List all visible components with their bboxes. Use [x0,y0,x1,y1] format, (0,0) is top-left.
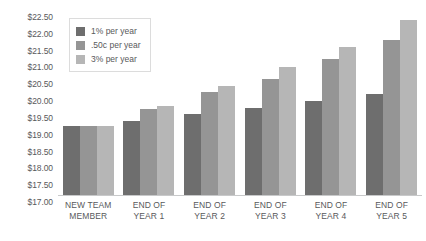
x-tick-label: END OFYEAR 4 [301,200,362,222]
bar [383,40,400,195]
bar [97,126,114,195]
y-tick-label: $20.50 [28,80,53,89]
bar [339,47,356,195]
legend-item: .50c per year [76,38,141,52]
bar [366,94,383,195]
legend-swatch-icon [76,55,85,64]
y-tick-label: $18.50 [28,148,53,157]
y-tick-label: $22.50 [28,13,53,22]
x-tick-label-line: YEAR 5 [361,211,422,222]
bar-chart: $22.50$22.00$21.50$21.00$20.50$20.00$19.… [0,0,426,241]
x-tick-label-line: END OF [301,200,362,211]
y-axis: $22.50$22.00$21.50$21.00$20.50$20.00$19.… [0,14,57,202]
x-tick-label: END OFYEAR 2 [179,200,240,222]
x-tick-label: END OFYEAR 5 [361,200,422,222]
legend-swatch-icon [76,27,85,36]
bar [305,101,322,195]
x-tick-label-line: END OF [119,200,180,211]
y-tick-label: $17.00 [28,198,53,207]
y-tick-label: $21.00 [28,63,53,72]
y-tick-label: $19.50 [28,114,53,123]
bar [80,126,97,195]
x-tick-label: NEW TEAMMEMBER [58,200,119,222]
bar [262,79,279,195]
bar-group [301,10,362,195]
x-tick-label-line: NEW TEAM [58,200,119,211]
bar [157,106,174,195]
bar [400,20,417,195]
x-tick-label-line: YEAR 2 [179,211,240,222]
y-tick-label: $17.50 [28,181,53,190]
x-tick-label-line: YEAR 3 [240,211,301,222]
bar [63,126,80,195]
x-tick-label-line: YEAR 4 [301,211,362,222]
y-tick-label: $19.00 [28,131,53,140]
bar-group [179,10,240,195]
bar [123,121,140,195]
x-tick-label-line: YEAR 1 [119,211,180,222]
x-tick-label: END OFYEAR 3 [240,200,301,222]
y-tick-label: $22.00 [28,30,53,39]
chart-legend: 1% per year.50c per year3% per year [69,18,151,72]
legend-swatch-icon [76,41,85,50]
x-axis: NEW TEAMMEMBEREND OFYEAR 1END OFYEAR 2EN… [58,200,422,234]
bar [201,92,218,195]
x-tick-label-line: END OF [361,200,422,211]
y-tick-label: $18.00 [28,164,53,173]
x-tick-label-line: END OF [179,200,240,211]
legend-label: 3% per year [91,54,137,64]
y-tick-label: $21.50 [28,47,53,56]
bar [184,114,201,195]
bar [140,109,157,195]
bar [279,67,296,195]
y-tick-label: $20.00 [28,97,53,106]
x-tick-label: END OFYEAR 1 [119,200,180,222]
bar-group [361,10,422,195]
bar-group [240,10,301,195]
legend-item: 1% per year [76,24,141,38]
bar [218,86,235,195]
legend-label: 1% per year [91,26,137,36]
x-tick-label-line: END OF [240,200,301,211]
x-tick-label-line: MEMBER [58,211,119,222]
bar [322,59,339,195]
legend-item: 3% per year [76,52,141,66]
bar [245,108,262,195]
x-axis-line [58,195,422,196]
legend-label: .50c per year [91,40,141,50]
